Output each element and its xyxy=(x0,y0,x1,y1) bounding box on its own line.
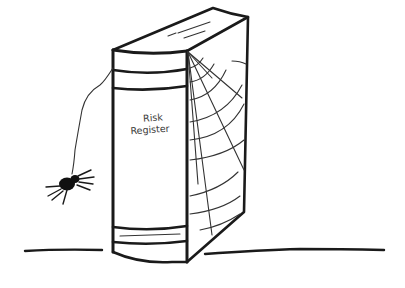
ground-lines xyxy=(25,249,384,254)
spider-icon xyxy=(46,170,94,204)
spider-thread xyxy=(72,68,113,174)
book-spine xyxy=(113,50,187,262)
cobweb xyxy=(188,52,246,235)
illustration: Risk Register xyxy=(0,0,405,288)
book-top xyxy=(113,8,248,51)
book-drawing xyxy=(0,0,405,288)
